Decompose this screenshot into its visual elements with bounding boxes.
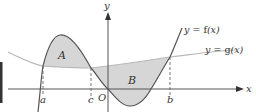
x-axis-arrow-icon: [236, 86, 244, 92]
g-curve-label: y = g(x): [204, 44, 244, 55]
g-curve-label-arg: (x): [230, 44, 243, 55]
region-a: [43, 35, 91, 68]
x-marker-c: c: [88, 94, 94, 105]
y-axis-label: y: [103, 0, 110, 11]
x-axis-label: x: [246, 83, 252, 94]
x-marker-a: a: [40, 94, 46, 105]
region-b-label: B: [127, 74, 136, 87]
y-axis-arrow-icon: [105, 12, 111, 20]
origin-label: O: [98, 92, 106, 103]
f-curve-label-arg: (x): [207, 24, 220, 35]
g-curve-label-prefix: y =: [204, 44, 224, 55]
f-curve-label: y = f(x): [183, 24, 220, 35]
area-between-curves-diagram: y x O a c b A B y = f(x) y = g(x): [0, 0, 256, 112]
f-curve-label-prefix: y =: [183, 24, 203, 35]
side-bar: [0, 62, 3, 103]
region-a-label: A: [57, 49, 66, 62]
x-marker-b: b: [167, 94, 173, 105]
